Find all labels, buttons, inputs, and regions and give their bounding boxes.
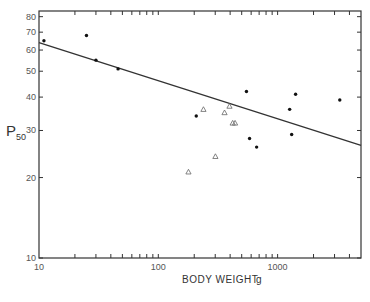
y-axis-ticks: 1020304050607080 — [26, 12, 361, 263]
data-point-triangle — [213, 154, 218, 159]
data-point-circle — [290, 133, 293, 136]
data-point-circle — [42, 39, 45, 42]
y-tick-label: 80 — [26, 12, 36, 22]
y-tick-label: 20 — [26, 173, 36, 183]
x-tick-label: 100 — [151, 262, 166, 272]
data-point-triangle — [201, 107, 206, 112]
x-axis-unit: g — [256, 274, 262, 285]
y-tick-label: 70 — [26, 27, 36, 37]
data-point-circle — [195, 114, 198, 117]
data-point-circle — [248, 137, 251, 140]
data-point-circle — [116, 67, 119, 70]
data-point-circle — [255, 145, 258, 148]
scatter-chart: 101001000 1020304050607080 BODY WEIGHT g… — [0, 0, 370, 302]
data-point-circle — [338, 98, 341, 101]
data-point-circle — [288, 108, 291, 111]
x-axis-title: BODY WEIGHT — [182, 274, 258, 285]
x-axis-ticks: 101001000 — [34, 11, 349, 272]
data-point-circle — [245, 90, 248, 93]
data-point-circle — [294, 93, 297, 96]
data-point-circle — [94, 58, 97, 61]
data-point-circle — [85, 34, 88, 37]
y-tick-label: 40 — [26, 92, 36, 102]
data-point-triangle — [186, 169, 191, 174]
plot-frame — [39, 11, 361, 258]
y-tick-label: 60 — [26, 45, 36, 55]
y-tick-label: 50 — [26, 66, 36, 76]
x-tick-label: 1000 — [268, 262, 288, 272]
x-tick-label: 10 — [34, 262, 44, 272]
data-point-triangle — [222, 110, 227, 115]
y-tick-label: 30 — [26, 125, 36, 135]
y-tick-label: 10 — [26, 253, 36, 263]
data-points — [42, 34, 341, 174]
regression-line — [39, 43, 361, 146]
y-axis-title: P50 — [6, 122, 26, 142]
